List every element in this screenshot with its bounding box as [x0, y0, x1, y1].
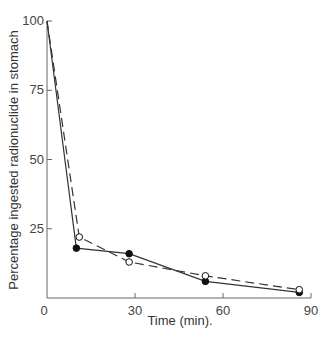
y-tick-label: 75	[30, 82, 44, 97]
axes: 2550751000306090	[22, 13, 318, 318]
filled-circle-marker	[126, 250, 133, 257]
y-tick-label: 100	[22, 13, 44, 28]
open-circle-marker	[126, 259, 133, 266]
y-tick-label: 25	[30, 221, 44, 236]
x-tick-label: 30	[128, 303, 142, 318]
y-axis-label: Percentage ingested radionuclide in stom…	[6, 30, 21, 289]
x-tick-label: 60	[216, 303, 230, 318]
line-chart: 2550751000306090 Time (min). Percentage …	[0, 0, 328, 340]
series-line	[47, 21, 299, 292]
open-circle-marker	[296, 286, 303, 293]
open-circle-marker	[76, 234, 83, 241]
x-axis-label: Time (min).	[147, 313, 212, 328]
series-group	[47, 21, 303, 296]
x-tick-label: 0	[40, 303, 47, 318]
y-tick-label: 50	[30, 152, 44, 167]
filled-circle-marker	[73, 245, 80, 252]
open-circle-marker	[202, 273, 209, 280]
x-tick-label: 90	[304, 303, 318, 318]
